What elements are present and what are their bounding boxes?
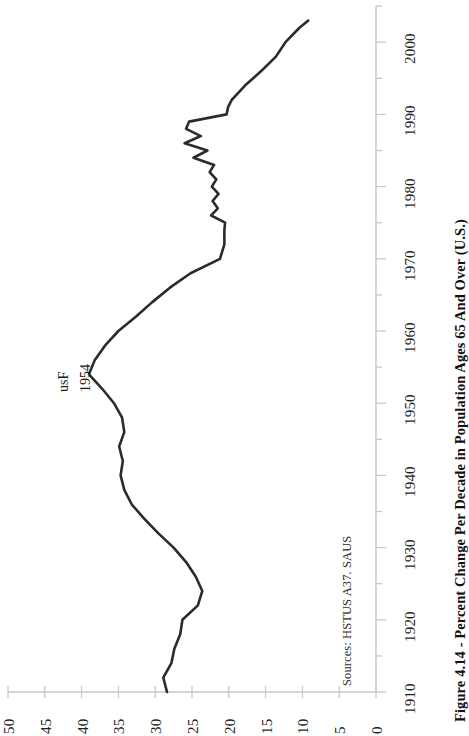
year-axis-label: 1940 (402, 467, 419, 498)
year-axis-label: 1990 (402, 106, 419, 137)
data-series-line (89, 21, 308, 692)
value-axis-label: 30 (148, 719, 165, 734)
axis-layer (8, 6, 386, 698)
annotation-label-year: 1954 (78, 364, 94, 392)
year-axis-label: 1950 (402, 394, 419, 425)
value-axis-label: 0 (369, 726, 386, 734)
year-axis-label: 1910 (402, 683, 419, 714)
annotation-label-usf: usF (56, 372, 72, 392)
value-axis-label: 5 (332, 726, 349, 734)
year-axis-label: 2000 (402, 33, 419, 64)
value-axis-label: 25 (185, 719, 202, 734)
value-axis-label: 35 (111, 719, 128, 734)
page-title: Figure 4.14 - Percent Change Per Decade … (452, 219, 469, 722)
value-axis-label: 45 (38, 719, 55, 734)
year-axis-label: 1930 (402, 539, 419, 570)
value-axis-label: 15 (259, 719, 276, 734)
value-axis-label: 50 (1, 719, 18, 734)
value-axis-label: 10 (295, 719, 312, 734)
year-axis-label: 1960 (402, 322, 419, 353)
year-axis-label: 1980 (402, 178, 419, 209)
value-axis-label: 40 (75, 719, 92, 734)
source-note: Sources: HSTUS A37. SAUS (340, 536, 355, 686)
year-axis-label: 1970 (402, 250, 419, 281)
value-axis-label: 20 (222, 719, 239, 734)
year-axis-label: 1920 (402, 611, 419, 642)
